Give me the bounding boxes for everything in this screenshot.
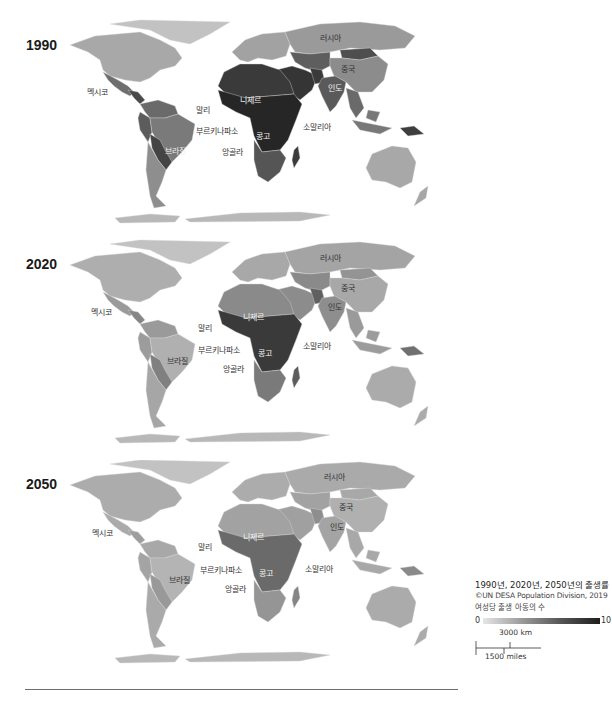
region-australia xyxy=(366,586,416,628)
world-map-2050 xyxy=(0,460,480,690)
label-somalia: 소말리아 xyxy=(303,343,331,351)
distance-scale-bar: 3000 km 1500 miles xyxy=(475,628,545,664)
legend-source: ©UN DESA Population Division, 2019 xyxy=(475,591,610,601)
label-burkina-faso: 부르키나파소 xyxy=(196,128,238,136)
label-russia: 러시아 xyxy=(320,255,341,263)
color-scale-min: 0 xyxy=(475,616,480,625)
color-scale-bar xyxy=(483,618,600,624)
region-png xyxy=(400,346,424,356)
region-india xyxy=(318,516,346,552)
label-mali: 말리 xyxy=(198,544,212,552)
region-australia xyxy=(366,146,416,188)
region-antarctica xyxy=(115,432,330,443)
label-india: 인도 xyxy=(328,304,342,312)
label-india: 인도 xyxy=(328,85,342,93)
color-scale-max: 10 xyxy=(601,616,611,625)
year-label: 1990 xyxy=(26,37,57,53)
region-central xyxy=(128,310,145,324)
legend-unit: 여성당 출생 아동의 수 xyxy=(475,603,610,613)
year-label: 2020 xyxy=(26,256,57,272)
label-somalia: 소말리아 xyxy=(305,566,333,574)
region-europe xyxy=(232,252,290,282)
region-central xyxy=(128,90,145,104)
region-madagascar xyxy=(292,366,300,388)
label-mali: 말리 xyxy=(196,107,210,115)
label-somalia: 소말리아 xyxy=(303,124,331,132)
label-niger: 니제르 xyxy=(243,534,264,542)
map-panel-2050: 2050 멕시코 말리 니제르 부르키나파소 브라질 콩고 앙골라 소말리아 러… xyxy=(0,460,480,690)
label-niger: 니제르 xyxy=(240,97,261,105)
region-india xyxy=(318,76,346,112)
label-russia: 러시아 xyxy=(324,474,345,482)
scale-miles-label: 1500 miles xyxy=(485,652,526,661)
world-map-1990 xyxy=(0,0,480,230)
map-panel-2020: 2020 멕시코 말리 니제르 부르키나파소 브라질 콩고 앙골라 소말리아 러… xyxy=(0,230,480,460)
label-niger: 니제르 xyxy=(243,314,264,322)
region-madagascar xyxy=(292,146,300,168)
label-congo: 콩고 xyxy=(256,133,270,141)
region-europe xyxy=(232,472,290,502)
legend: 1990년, 2020년, 2050년의 출생률 ©UN DESA Popula… xyxy=(475,580,610,626)
year-label: 2050 xyxy=(26,476,57,492)
label-china: 중국 xyxy=(339,504,353,512)
label-brazil: 브라질 xyxy=(165,148,186,156)
label-brazil: 브라질 xyxy=(169,577,190,585)
region-central xyxy=(128,530,145,544)
region-se-asia xyxy=(346,88,364,118)
region-madagascar xyxy=(292,586,300,608)
label-mexico: 멕시코 xyxy=(87,89,108,97)
region-na xyxy=(70,252,182,302)
region-nz xyxy=(414,406,428,426)
region-australia xyxy=(366,366,416,408)
label-burkina-faso: 부르키나파소 xyxy=(198,347,240,355)
region-png xyxy=(400,126,424,136)
label-india: 인도 xyxy=(330,524,344,532)
label-burkina-faso: 부르키나파소 xyxy=(200,567,242,575)
region-antarctica xyxy=(115,652,330,663)
world-map-2020 xyxy=(0,230,480,460)
region-nz xyxy=(414,626,428,646)
region-se-asia xyxy=(346,528,364,558)
region-antarctica xyxy=(115,212,330,223)
legend-title: 1990년, 2020년, 2050년의 출생률 xyxy=(475,580,610,591)
label-angola: 앙골라 xyxy=(225,586,246,594)
region-europe xyxy=(232,32,290,62)
region-se-asia xyxy=(346,308,364,338)
region-india xyxy=(318,296,346,332)
label-mexico: 멕시코 xyxy=(91,309,112,317)
label-mali: 말리 xyxy=(198,325,212,333)
label-china: 중국 xyxy=(341,66,355,74)
label-congo: 콩고 xyxy=(259,570,273,578)
color-scale: 0 10 xyxy=(475,616,610,626)
region-na xyxy=(70,32,182,82)
label-congo: 콩고 xyxy=(258,350,272,358)
label-china: 중국 xyxy=(341,285,355,293)
map-panel-1990: 1990 멕시코 말리 니제르 부르키나파소 브라질 콩고 앙골라 소말리아 러… xyxy=(0,0,480,230)
label-brazil: 브라질 xyxy=(167,358,188,366)
label-mexico: 멕시코 xyxy=(92,530,113,538)
region-png xyxy=(400,566,424,576)
label-angola: 앙골라 xyxy=(222,149,243,157)
region-na xyxy=(70,472,182,522)
label-angola: 앙골라 xyxy=(223,366,244,374)
bottom-rule xyxy=(25,689,458,690)
region-nz xyxy=(414,186,428,206)
label-russia: 러시아 xyxy=(320,35,341,43)
